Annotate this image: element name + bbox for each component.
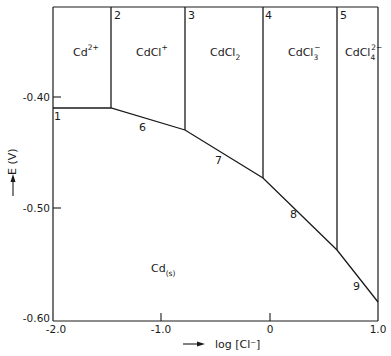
line-label-6: 6 — [139, 121, 146, 134]
y-tick-label: -0.50 — [23, 202, 50, 214]
x-tick-label: -1.0 — [151, 323, 172, 335]
species-cdcl4-2minus: CdCl42− — [345, 43, 382, 62]
line-label-7: 7 — [215, 154, 222, 167]
x-axis-arrow-icon — [183, 342, 205, 347]
pourbaix-diagram: 1 2 3 4 5 6 7 8 9 Cd2+ CdCl+ CdCl2 CdCl3… — [0, 0, 391, 356]
line-label-5: 5 — [340, 9, 347, 22]
line-label-2: 2 — [114, 9, 121, 22]
svg-text:E (V): E (V) — [6, 148, 19, 175]
species-cdcl-plus: CdCl+ — [136, 43, 168, 59]
species-cd-solid: Cd(s) — [151, 262, 176, 278]
line-label-1: 1 — [54, 110, 61, 123]
species-cdcl2: CdCl2 — [210, 46, 240, 62]
line-label-9: 9 — [353, 280, 360, 293]
y-axis-arrow-icon — [11, 174, 16, 196]
x-axis-title: log [Cl⁻] — [215, 338, 260, 351]
x-tick-label: 0 — [267, 323, 274, 335]
species-cd2plus: Cd2+ — [73, 43, 99, 59]
y-tick-label: -0.40 — [23, 91, 50, 103]
x-tick-label: 1.0 — [370, 323, 387, 335]
y-axis-title: E (V) — [6, 148, 19, 175]
line-label-4: 4 — [265, 9, 272, 22]
x-axis-ticks — [161, 313, 270, 321]
x-tick-label: -2.0 — [46, 323, 67, 335]
line-label-8: 8 — [290, 208, 297, 221]
line-label-3: 3 — [188, 9, 195, 22]
solid-boundary-line — [53, 108, 378, 302]
species-cdcl3-minus: CdCl3− — [288, 43, 320, 62]
